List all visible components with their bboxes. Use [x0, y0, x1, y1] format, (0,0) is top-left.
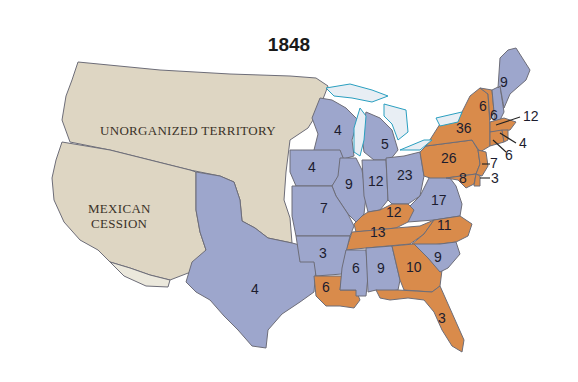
ev-missouri: 7 [320, 200, 328, 216]
state-florida [376, 286, 464, 352]
ev-indiana: 12 [368, 173, 384, 189]
ev-iowa: 4 [308, 159, 316, 175]
ev-connecticut: 6 [505, 147, 513, 163]
ev-tennessee: 13 [370, 224, 386, 240]
ev-ohio: 23 [397, 167, 413, 183]
ev-michigan: 5 [381, 136, 389, 152]
ev-massachusetts: 12 [523, 108, 539, 124]
ev-illinois: 9 [345, 176, 353, 192]
us-electoral-map: UNORGANIZED TERRITORY MEXICAN CESSION 9 … [0, 0, 578, 382]
ev-new-jersey: 7 [490, 155, 498, 171]
ev-pennsylvania: 26 [441, 150, 457, 166]
ev-florida: 3 [438, 310, 446, 326]
ev-north-carolina: 11 [437, 217, 452, 233]
ev-south-carolina: 9 [434, 249, 442, 265]
ev-rhode-island: 4 [519, 135, 527, 151]
ev-kentucky: 12 [386, 204, 402, 220]
ev-delaware: 3 [491, 170, 499, 186]
lake-superior [326, 84, 388, 102]
label-unorganized-territory: UNORGANIZED TERRITORY [100, 123, 276, 138]
ev-maryland: 8 [459, 170, 467, 186]
label-mexican-cession-line1: MEXICAN [88, 201, 151, 216]
ev-texas: 4 [251, 281, 259, 297]
label-mexican-cession-line2: CESSION [91, 216, 148, 231]
ev-mississippi: 6 [352, 260, 360, 276]
ev-alabama: 9 [377, 260, 385, 276]
ev-vermont: 6 [479, 98, 487, 114]
ev-arkansas: 3 [319, 245, 327, 261]
ev-maine: 9 [500, 74, 508, 90]
ev-wisconsin: 4 [334, 122, 342, 138]
ev-new-hampshire: 6 [490, 107, 498, 123]
ev-louisiana: 6 [322, 279, 330, 295]
ev-new-york: 36 [456, 120, 472, 136]
ev-virginia: 17 [431, 192, 447, 208]
ev-georgia: 10 [406, 259, 422, 275]
